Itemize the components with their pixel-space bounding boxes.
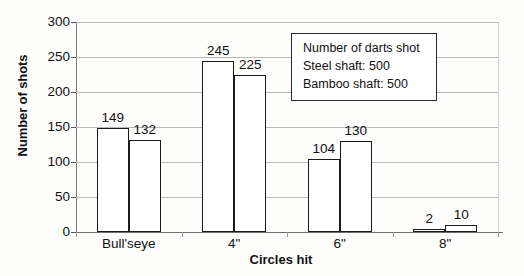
bar [445, 225, 477, 232]
bar-value-label: 10 [437, 208, 485, 222]
y-axis-tick-label: 50 [32, 190, 70, 204]
y-axis-tick-mark [71, 162, 76, 163]
y-axis-tick-label: 200 [32, 85, 70, 99]
y-axis-tick-labels: 050100150200250300 [26, 0, 70, 276]
x-axis-category-label: 4" [182, 236, 288, 251]
annotation-line-title: Number of darts shot [303, 40, 427, 58]
y-axis-tick-label: 0 [32, 225, 70, 239]
annotation-legend-box: Number of darts shot Steel shaft: 500 Ba… [291, 33, 437, 101]
y-axis-tick-label: 250 [32, 50, 70, 64]
annotation-line-bamboo: Bamboo shaft: 500 [303, 76, 427, 94]
x-axis-title: Circles hit [0, 252, 524, 267]
x-axis-category-label: 8" [393, 236, 499, 251]
bar-value-label: 132 [121, 123, 169, 137]
bar [234, 75, 266, 233]
y-axis-tick-label: 100 [32, 155, 70, 169]
y-axis-tick-mark [71, 92, 76, 93]
x-axis-category-label: Bull'seye [76, 236, 182, 251]
bar-chart: Number of shots 050100150200250300 14913… [0, 0, 524, 276]
bar-value-label: 245 [194, 44, 242, 58]
y-axis-tick-mark [71, 57, 76, 58]
y-axis-tick-mark [71, 127, 76, 128]
bar-value-label: 130 [332, 124, 380, 138]
plot-right-edge [498, 22, 499, 232]
bar [308, 159, 340, 232]
y-axis-tick-mark [71, 197, 76, 198]
gridline [76, 22, 498, 23]
bar [129, 140, 161, 232]
x-axis-tick-mark [287, 232, 288, 237]
x-axis-category-label: 6" [287, 236, 393, 251]
y-axis-tick-label: 150 [32, 120, 70, 134]
annotation-line-steel: Steel shaft: 500 [303, 58, 427, 76]
bar [202, 61, 234, 233]
x-axis-tick-mark [76, 232, 77, 237]
x-axis-tick-mark [182, 232, 183, 237]
y-axis-tick-mark [71, 232, 76, 233]
bar-value-label: 225 [226, 58, 274, 72]
bar [97, 128, 129, 232]
y-axis-tick-mark [71, 22, 76, 23]
bar [340, 141, 372, 232]
x-axis-tick-mark [393, 232, 394, 237]
bar [413, 229, 445, 232]
x-axis-tick-mark [498, 232, 499, 237]
y-axis-tick-label: 300 [32, 15, 70, 29]
